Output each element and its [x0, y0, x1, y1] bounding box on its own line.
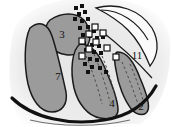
- open-square-marker: [86, 46, 92, 52]
- filled-square-marker: [73, 17, 77, 21]
- open-square-marker: [113, 54, 119, 60]
- filled-square-marker: [74, 6, 78, 10]
- filled-square-marker: [86, 25, 90, 29]
- filled-square-marker: [90, 65, 94, 69]
- filled-square-marker: [81, 33, 85, 37]
- filled-square-marker: [104, 70, 108, 74]
- anatomical-section-figure: 3 7 4 2 11: [0, 0, 171, 127]
- region-label-7: 7: [55, 70, 61, 82]
- open-square-marker: [86, 31, 92, 37]
- open-square-marker: [93, 39, 99, 45]
- region-label-4: 4: [109, 97, 115, 109]
- filled-square-marker: [86, 17, 90, 21]
- open-square-marker: [100, 30, 106, 36]
- filled-square-marker: [80, 19, 84, 23]
- filled-square-marker: [88, 57, 92, 61]
- filled-square-marker: [77, 12, 81, 16]
- open-square-marker: [92, 24, 98, 30]
- region-label-11: 11: [132, 49, 143, 61]
- filled-square-marker: [98, 66, 102, 70]
- filled-square-marker: [95, 58, 99, 62]
- open-square-marker: [79, 53, 85, 59]
- figure-canvas: 3 7 4 2 11: [0, 0, 171, 127]
- region-label-3: 3: [59, 28, 65, 40]
- open-square-marker: [104, 45, 110, 51]
- filled-square-marker: [83, 10, 87, 14]
- filled-square-marker: [83, 62, 87, 66]
- region-label-2: 2: [138, 100, 144, 112]
- filled-square-marker: [80, 4, 84, 8]
- filled-square-marker: [99, 51, 103, 55]
- filled-square-marker: [86, 70, 90, 74]
- open-square-marker: [79, 38, 85, 44]
- filled-square-marker: [78, 26, 82, 30]
